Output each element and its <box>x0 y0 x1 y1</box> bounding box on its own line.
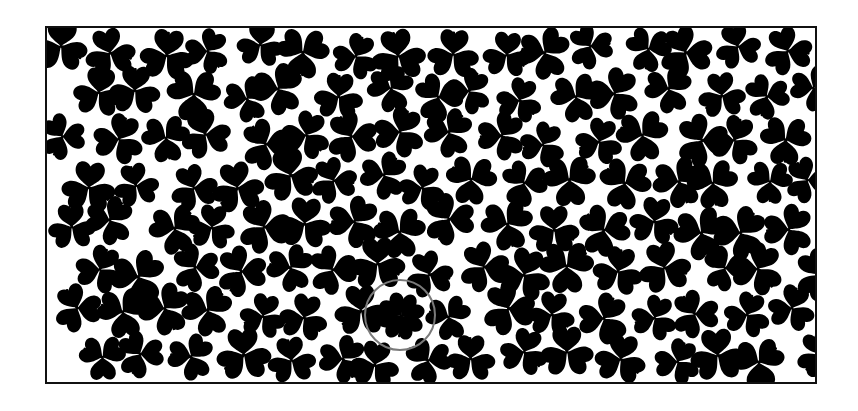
clover-field <box>0 0 858 411</box>
puzzle-canvas <box>0 0 858 411</box>
